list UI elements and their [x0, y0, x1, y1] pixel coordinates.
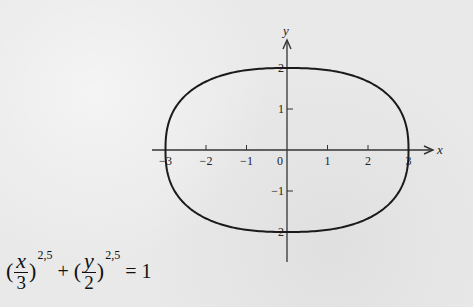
x-tick-label: 1	[325, 154, 331, 168]
x-tick-label: 3	[406, 154, 412, 168]
x-tick-label: 0	[277, 154, 283, 168]
y-tick-label: 2	[278, 61, 284, 75]
exponent: 2,5	[105, 248, 120, 263]
y-tick-label: −2	[271, 225, 284, 239]
axes	[152, 40, 433, 262]
tick-labels: xy−3−2−1012321−1−2	[159, 23, 443, 239]
y-axis-label: y	[281, 23, 289, 38]
x-tick-label: −1	[240, 154, 253, 168]
x-tick-label: −3	[159, 154, 172, 168]
x-tick-label: 2	[365, 154, 371, 168]
x-fraction: x 3	[14, 250, 28, 292]
y-tick-label: −1	[271, 184, 284, 198]
x-tick-label: −2	[200, 154, 213, 168]
exponent: 2,5	[37, 248, 52, 263]
equation-label: ( x 3 ) 2,5 + ( y 2 ) 2,5 = 1	[6, 250, 156, 292]
y-tick-label: 1	[278, 102, 284, 116]
x-axis-label: x	[436, 142, 443, 157]
y-fraction: y 2	[82, 250, 96, 292]
